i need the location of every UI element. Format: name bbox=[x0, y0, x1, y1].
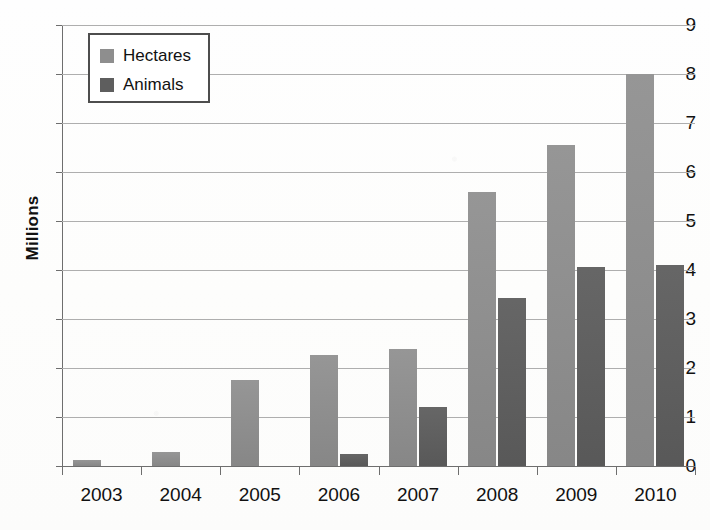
legend-swatch-hectares-icon bbox=[100, 49, 114, 63]
x-tick-mark bbox=[616, 467, 617, 475]
x-tick-mark bbox=[220, 467, 221, 475]
x-tick-label-2007: 2007 bbox=[397, 484, 439, 506]
x-tick-label-2009: 2009 bbox=[555, 484, 597, 506]
x-tick-label-2008: 2008 bbox=[476, 484, 518, 506]
x-tick-mark bbox=[458, 467, 459, 475]
x-tick-label-2003: 2003 bbox=[80, 484, 122, 506]
legend-label-hectares: Hectares bbox=[123, 47, 191, 64]
y-axis-title: Millions bbox=[23, 168, 43, 288]
bar-animals-2010 bbox=[656, 265, 684, 466]
x-tick-label-2005: 2005 bbox=[239, 484, 281, 506]
legend: Hectares Animals bbox=[88, 33, 210, 103]
x-tick-mark bbox=[62, 467, 63, 475]
x-tick-label-2010: 2010 bbox=[634, 484, 676, 506]
x-tick-mark bbox=[537, 467, 538, 475]
legend-entry-animals: Animals bbox=[100, 71, 208, 98]
x-tick-mark bbox=[379, 467, 380, 475]
x-tick-mark bbox=[695, 467, 696, 475]
x-tick-mark bbox=[299, 467, 300, 475]
x-tick-label-2004: 2004 bbox=[160, 484, 202, 506]
legend-swatch-animals-icon bbox=[100, 78, 114, 92]
legend-entry-hectares: Hectares bbox=[100, 42, 208, 69]
x-tick-mark bbox=[141, 467, 142, 475]
legend-label-animals: Animals bbox=[123, 76, 183, 93]
bar-chart: Millions 0123456789 20032004200520062007… bbox=[0, 0, 710, 530]
x-tick-label-2006: 2006 bbox=[318, 484, 360, 506]
bar-hectares-2010 bbox=[626, 74, 654, 466]
